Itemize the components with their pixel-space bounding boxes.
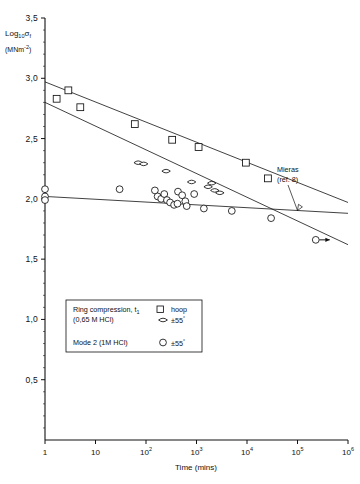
y-tick-label: 2,5	[26, 134, 38, 144]
y-axis-label: Log10σf	[5, 29, 31, 39]
legend-circle-marker	[160, 339, 167, 346]
x-axis-label: Time (mins)	[175, 463, 217, 472]
data-point-square	[195, 144, 202, 151]
legend-square-marker	[157, 306, 163, 312]
data-point-square	[169, 136, 176, 143]
legend-row3-label: ±55°	[171, 338, 185, 348]
data-point-lens	[204, 185, 212, 189]
data-point-lens	[208, 181, 216, 185]
legend-lens-marker	[159, 318, 168, 322]
data-point-square	[65, 87, 72, 94]
legend-row2-label: ±55°	[171, 315, 185, 325]
x-tick-label: 10	[91, 448, 100, 457]
y-tick-label: 3,0	[26, 73, 38, 83]
data-point-square	[242, 159, 249, 166]
y-axis-units: (MNm-2)	[5, 44, 31, 54]
data-point-circle	[312, 236, 319, 243]
data-point-circle	[191, 191, 198, 198]
data-point-lens	[139, 162, 147, 166]
y-tick-label: 2,0	[26, 194, 38, 204]
data-point-lens	[216, 191, 224, 195]
data-point-circle	[228, 208, 235, 215]
data-point-circle	[42, 197, 49, 204]
y-tick-label: 1,0	[26, 314, 38, 324]
legend-row3-title: Mode 2 (1M HCl)	[73, 338, 128, 347]
figure-container: 0,51,01,52,02,53,03,5 110102103104105106…	[0, 0, 360, 484]
trend-line-hoop-fit	[45, 82, 348, 203]
data-point-circle	[116, 186, 123, 193]
x-tick-label: 106	[342, 446, 354, 457]
x-tick-label: 105	[292, 446, 304, 457]
legend-row1-title: Ring compression, t1	[73, 305, 140, 315]
scatter-plot-svg: 0,51,01,52,02,53,03,5 110102103104105106…	[0, 0, 360, 484]
data-point-lens	[162, 169, 170, 173]
trend-line-mieras-line	[45, 196, 348, 213]
data-point-circle	[42, 186, 49, 193]
x-tick-label: 103	[191, 446, 203, 457]
y-tick-label: 1,5	[26, 254, 38, 264]
x-tick-label: 1	[43, 448, 48, 457]
y-tick-label: 3,5	[26, 13, 38, 23]
data-point-circle	[200, 205, 207, 212]
data-point-square	[53, 95, 60, 102]
trend-line-pm55-fit	[45, 102, 348, 244]
data-point-lens	[187, 180, 195, 184]
mieras-annotation-line2: (ref. 8)	[277, 175, 298, 184]
mieras-leader-line	[288, 185, 298, 211]
data-point-square	[77, 104, 84, 111]
runout-arrowhead	[325, 238, 329, 242]
data-point-square	[265, 175, 272, 182]
legend-row2-title: (0,65 M HCl)	[73, 315, 114, 324]
x-axis-ticks: 110102103104105106	[43, 440, 354, 457]
data-point-circle	[268, 215, 275, 222]
mieras-arrow-icon	[298, 204, 303, 210]
y-tick-label: 0,5	[26, 375, 38, 385]
x-tick-label: 102	[140, 446, 152, 457]
trend-lines	[45, 82, 348, 245]
data-point-circle	[174, 200, 181, 207]
data-point-circle	[183, 203, 190, 210]
y-axis-ticks: 0,51,01,52,02,53,03,5	[26, 13, 45, 428]
legend-row1-label: hoop	[171, 305, 187, 314]
runout-arrow-icon	[319, 238, 329, 242]
data-point-square	[131, 121, 138, 128]
x-tick-label: 104	[241, 446, 253, 457]
mieras-annotation-line1: Mieras	[277, 165, 299, 174]
